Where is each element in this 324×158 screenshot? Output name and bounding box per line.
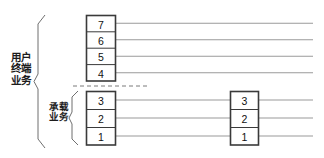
upper-connector-lines xyxy=(116,23,313,72)
user-terminal-service-label: 用户 终端 业务 xyxy=(6,52,36,86)
bearer-service-label: 承载 业务 xyxy=(47,102,71,123)
cell-label-remote-2: 1 xyxy=(230,132,259,143)
cell-label-remote-1: 2 xyxy=(230,114,259,125)
cell-label-lower-2: 1 xyxy=(86,132,116,143)
cell-label-upper-1: 6 xyxy=(86,36,116,47)
cell-label-upper-3: 4 xyxy=(86,69,116,80)
cell-label-upper-0: 7 xyxy=(86,20,116,31)
lower-connector-lines xyxy=(116,100,230,136)
diagram-vector-layer xyxy=(0,0,324,158)
cell-label-upper-2: 5 xyxy=(86,52,116,63)
cell-label-remote-0: 3 xyxy=(230,96,259,107)
cell-label-lower-1: 2 xyxy=(86,114,116,125)
remote-connector-lines xyxy=(259,100,313,136)
diagram-canvas: 用户 终端 业务 承载 业务 7 6 5 4 3 2 1 3 2 1 xyxy=(0,0,324,158)
cell-label-lower-0: 3 xyxy=(86,96,116,107)
